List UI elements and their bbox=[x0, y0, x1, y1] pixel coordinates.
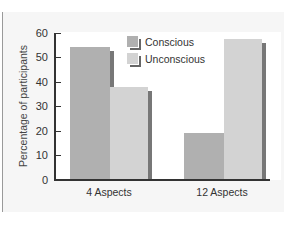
tick-mark bbox=[56, 33, 61, 34]
y-tick-0: 0 bbox=[28, 174, 48, 186]
bar-12-aspects-conscious bbox=[184, 133, 224, 180]
tick-mark bbox=[56, 155, 61, 156]
y-tick-50: 50 bbox=[28, 51, 48, 63]
y-tick-20: 20 bbox=[28, 125, 48, 137]
category-label: 4 Aspects bbox=[69, 186, 149, 198]
legend-swatch-icon bbox=[127, 53, 138, 64]
y-axis bbox=[54, 33, 56, 180]
legend-swatch-icon bbox=[127, 36, 138, 47]
y-tick-60: 60 bbox=[28, 27, 48, 39]
x-axis bbox=[54, 179, 270, 181]
bar-12-aspects-unconscious bbox=[224, 39, 262, 180]
y-tick-10: 10 bbox=[28, 149, 48, 161]
bar-4-aspects-unconscious bbox=[110, 87, 148, 180]
y-tick-30: 30 bbox=[28, 100, 48, 112]
tick-mark bbox=[56, 82, 61, 83]
tick-mark bbox=[56, 131, 61, 132]
bar-4-aspects-conscious bbox=[70, 47, 110, 180]
y-tick-40: 40 bbox=[28, 76, 48, 88]
tick-mark bbox=[56, 106, 61, 107]
tick-mark bbox=[56, 57, 61, 58]
category-label: 12 Aspects bbox=[182, 186, 262, 198]
